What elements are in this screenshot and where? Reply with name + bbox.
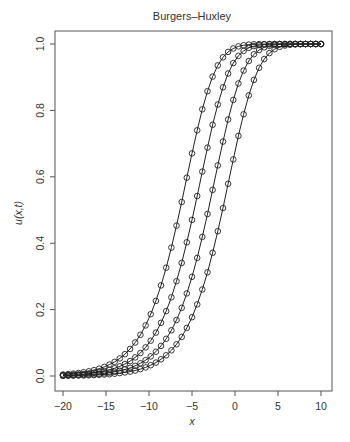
- y-tick-label: 0.2: [34, 302, 46, 317]
- chart-title: Burgers–Huxley: [153, 10, 232, 22]
- burgers-huxley-chart: Burgers–Huxley −20−15−10−50510 0.00.20.4…: [0, 0, 350, 442]
- x-tick-label: −10: [140, 400, 158, 412]
- series-line: [63, 44, 321, 376]
- y-tick-label: 0.4: [34, 236, 46, 251]
- series-t3: [60, 41, 324, 378]
- x-tick-label: −20: [54, 400, 72, 412]
- x-axis-label: x: [188, 415, 195, 427]
- series-layer: [60, 41, 324, 378]
- y-axis-label: u(x,t): [12, 201, 24, 225]
- y-axis: 0.00.20.40.60.81.0: [34, 37, 55, 384]
- y-tick-label: 0.6: [34, 169, 46, 184]
- series-t1: [60, 41, 324, 377]
- x-tick-label: −15: [97, 400, 115, 412]
- x-tick-label: 10: [315, 400, 327, 412]
- y-tick-label: 0.0: [34, 369, 46, 384]
- x-tick-label: 0: [232, 400, 238, 412]
- series-t2: [60, 41, 324, 378]
- series-line: [63, 44, 321, 375]
- x-tick-label: 5: [275, 400, 281, 412]
- x-tick-label: −5: [186, 400, 198, 412]
- y-tick-label: 1.0: [34, 37, 46, 52]
- y-tick-label: 0.8: [34, 103, 46, 118]
- x-axis: −20−15−10−50510: [54, 391, 327, 412]
- series-line: [63, 44, 321, 376]
- series-line: [63, 44, 321, 375]
- series-t4: [60, 41, 324, 378]
